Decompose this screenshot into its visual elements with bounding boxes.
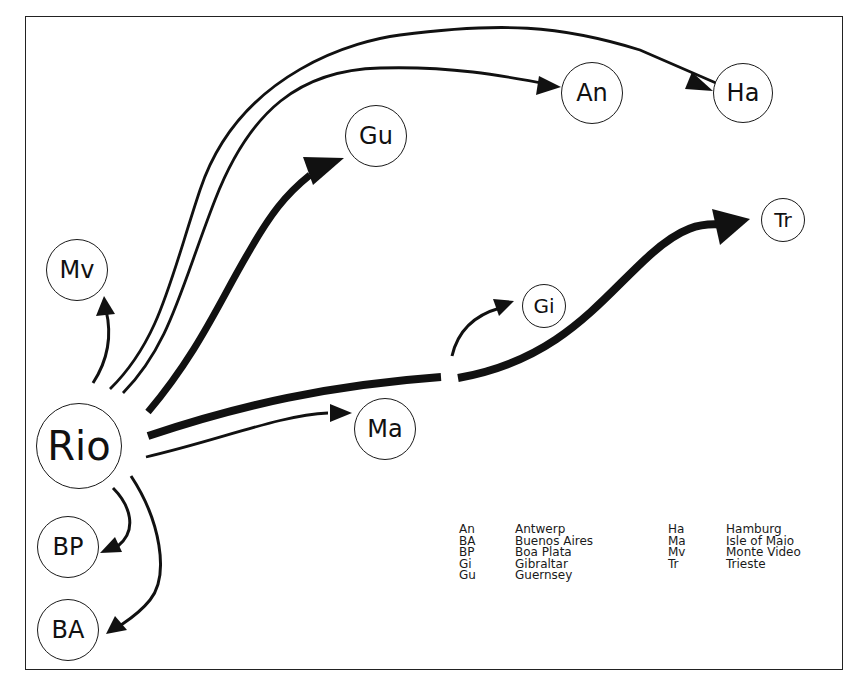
node-ma: Ma (354, 398, 416, 460)
arrowhead-an (536, 76, 561, 95)
node-ha: Ha (713, 63, 773, 123)
legend-name: Guernsey (515, 570, 572, 582)
arrowhead-gi (493, 299, 514, 316)
legend-row: TrTrieste (668, 559, 801, 571)
arrowhead-tr (712, 209, 750, 245)
arrowhead-bp (100, 537, 122, 553)
node-label: BP (53, 535, 84, 559)
legend-left: AnAntwerp BABuenos Aires BPBoa Plata GiG… (459, 524, 593, 582)
legend-abbr: Tr (668, 559, 726, 571)
node-label: Tr (774, 210, 792, 230)
arrowhead-gu (303, 157, 344, 185)
node-gi: Gi (522, 284, 566, 328)
legend-abbr: Gu (459, 570, 515, 582)
node-gu: Gu (345, 105, 407, 167)
node-label: Ma (367, 417, 402, 441)
node-an: An (561, 62, 623, 124)
legend-name: Trieste (726, 559, 766, 571)
node-ba: BA (37, 599, 99, 661)
node-mv: Mv (46, 239, 108, 301)
legend-right: HaHamburg MaIsle of Maio MvMonte Video T… (668, 524, 801, 570)
edge-rio-mv (93, 310, 109, 383)
edge-rio-gu (148, 175, 310, 412)
node-label: Mv (60, 258, 95, 282)
node-bp: BP (37, 516, 99, 578)
edge-rio-ba (118, 476, 160, 627)
arrowhead-ma (330, 404, 352, 422)
edge-branch-gi (452, 308, 500, 356)
node-label: Gi (533, 296, 554, 316)
arrowhead-mv (96, 296, 115, 316)
node-label: Gu (359, 124, 393, 148)
node-label: BA (52, 618, 85, 642)
node-rio: Rio (36, 403, 122, 489)
legend-row: GuGuernsey (459, 570, 593, 582)
edge-rio-bp (113, 488, 130, 546)
node-tr: Tr (761, 198, 805, 242)
edge-rio-ma (146, 413, 328, 457)
node-label: Rio (47, 426, 110, 466)
arrowhead-ba (106, 616, 127, 634)
node-label: Ha (727, 81, 760, 105)
node-label: An (576, 81, 608, 105)
